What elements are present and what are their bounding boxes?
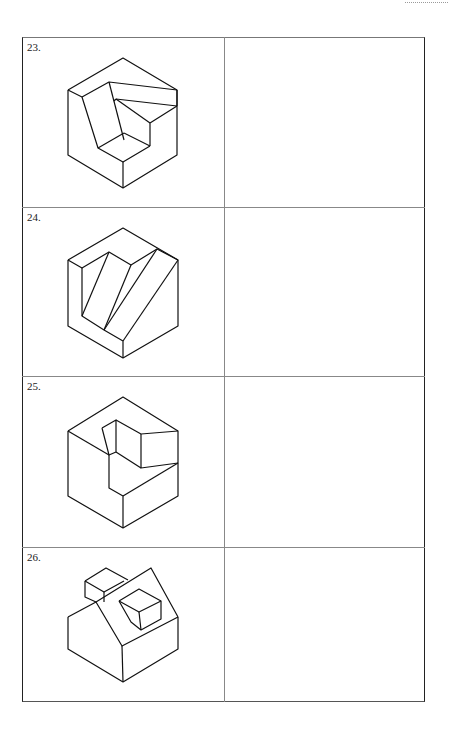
- isometric-figure-25: [68, 397, 178, 528]
- isometric-figure-26: [68, 568, 178, 682]
- isometric-drawings: [0, 0, 449, 737]
- isometric-figure-24: [68, 228, 178, 358]
- isometric-figure-23: [68, 58, 177, 188]
